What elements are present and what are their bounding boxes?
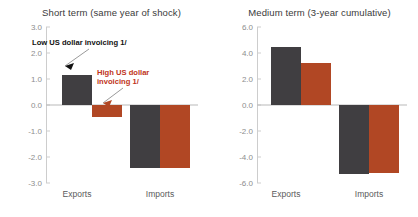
plot-area-medium-term: 6.0 4.0 2.0 0.0 -2.0 -4.0 -6.0 Exports I… — [257, 27, 407, 183]
y-tick-mark — [257, 53, 261, 54]
y-tick-mark — [257, 131, 261, 132]
x-category-label-imports: Imports — [355, 189, 383, 199]
y-tick-label: 3.0 — [2, 23, 42, 32]
y-tick-label: -1.0 — [2, 127, 42, 136]
y-tick-label: -2.0 — [213, 127, 253, 136]
x-category-label-imports: Imports — [146, 189, 174, 199]
y-tick-label: -4.0 — [213, 153, 253, 162]
y-tick-label: 4.0 — [213, 49, 253, 58]
y-tick-mark — [257, 79, 261, 80]
x-category-label-exports: Exports — [63, 189, 92, 199]
y-tick-label: -6.0 — [213, 179, 253, 188]
bar-imports-low-usd — [130, 105, 160, 168]
y-tick-label: 0.0 — [2, 101, 42, 110]
y-tick-mark — [257, 27, 261, 28]
bar-exports-high-usd — [301, 63, 331, 105]
chart-panel-medium-term: Medium term (3-year cumulative) 6.0 4.0 … — [209, 0, 418, 217]
y-tick-label: -3.0 — [2, 179, 42, 188]
annotation-high-usd-invoicing: High US dollar invoicing 1/ — [97, 68, 149, 87]
chart-figure: Short term (same year of shock) 3.0 2.0 … — [0, 0, 418, 217]
y-tick-mark — [46, 131, 50, 132]
y-tick-label: -2.0 — [2, 153, 42, 162]
y-tick-mark — [257, 157, 261, 158]
bar-imports-high-usd — [369, 105, 399, 173]
y-tick-mark — [46, 183, 50, 184]
y-tick-mark — [46, 157, 50, 158]
y-tick-mark — [46, 27, 50, 28]
y-tick-mark — [46, 53, 50, 54]
bar-imports-high-usd — [160, 105, 190, 168]
y-tick-mark — [46, 79, 50, 80]
y-tick-label: 2.0 — [213, 75, 253, 84]
y-tick-label: 2.0 — [2, 49, 42, 58]
bar-exports-low-usd — [271, 47, 301, 105]
panel-title-short-term: Short term (same year of shock) — [0, 7, 209, 18]
chart-panel-short-term: Short term (same year of shock) 3.0 2.0 … — [0, 0, 209, 217]
y-tick-mark — [257, 183, 261, 184]
panel-title-medium-term: Medium term (3-year cumulative) — [209, 7, 418, 18]
bar-exports-low-usd — [62, 75, 92, 105]
x-category-label-exports: Exports — [272, 189, 301, 199]
y-tick-label: 0.0 — [213, 101, 253, 110]
annotation-arrow-low-usd — [55, 46, 95, 74]
annotation-arrow-high-usd — [95, 86, 129, 110]
y-tick-label: 1.0 — [2, 75, 42, 84]
y-tick-label: 6.0 — [213, 23, 253, 32]
bar-imports-low-usd — [339, 105, 369, 174]
